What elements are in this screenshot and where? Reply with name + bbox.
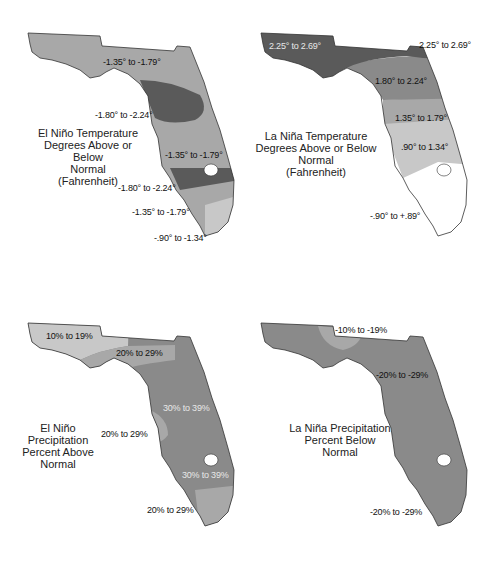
- region-label: 20% to 29%: [101, 429, 148, 439]
- map-title: La Niña Precipitation Percent Below Norm…: [285, 422, 395, 458]
- region-label: -20% to -29%: [376, 370, 428, 380]
- region-label: -10% to -19%: [335, 325, 387, 335]
- region-label: 1.80° to 2.24°: [375, 76, 427, 86]
- region-label: 30% to 39%: [182, 470, 229, 480]
- map-title: El Niño Precipitation Percent Above Norm…: [18, 422, 98, 470]
- region-label: -1.80° to -2.24°: [95, 110, 153, 120]
- region-label: -1.35° to -1.79°: [165, 150, 223, 160]
- region-label: 2.25° to 2.69°: [419, 40, 471, 50]
- region-label: -.90° to +.89°: [370, 211, 420, 221]
- region-label: 20% to 29%: [147, 505, 194, 515]
- region-label: 2.25° to 2.69°: [269, 41, 321, 51]
- map-el-nino-precipitation: 10% to 19% 20% to 29% 30% to 39% 20% to …: [0, 290, 249, 576]
- region-label: 1.35° to 1.79°: [395, 113, 447, 123]
- map-el-nino-temperature: El Niño Temperature Degrees Above or Bel…: [0, 0, 249, 288]
- region-label: -.90° to -1.34°: [154, 233, 207, 243]
- region-label: -1.35° to -1.79°: [103, 57, 161, 67]
- map-la-nina-precipitation: -10% to -19% -20% to -29% -20% to -29% L…: [249, 290, 498, 576]
- region-label: 10% to 19%: [46, 331, 93, 341]
- map-title: El Niño Temperature Degrees Above or Bel…: [28, 127, 148, 187]
- map-la-nina-temperature: 2.25° to 2.69° 2.25° to 2.69° 1.80° to 2…: [249, 0, 498, 288]
- region-label: -1.80° to -2.24°: [118, 183, 176, 193]
- map-title: La Niña Temperature Degrees Above or Bel…: [251, 130, 381, 178]
- region-label: -1.35° to -1.79°: [132, 207, 190, 217]
- region-label: -20% to -29%: [370, 507, 422, 517]
- region-label: 20% to 29%: [116, 348, 163, 358]
- region-label: .90° to 1.34°: [401, 142, 448, 152]
- region-label: 30% to 39%: [163, 403, 210, 413]
